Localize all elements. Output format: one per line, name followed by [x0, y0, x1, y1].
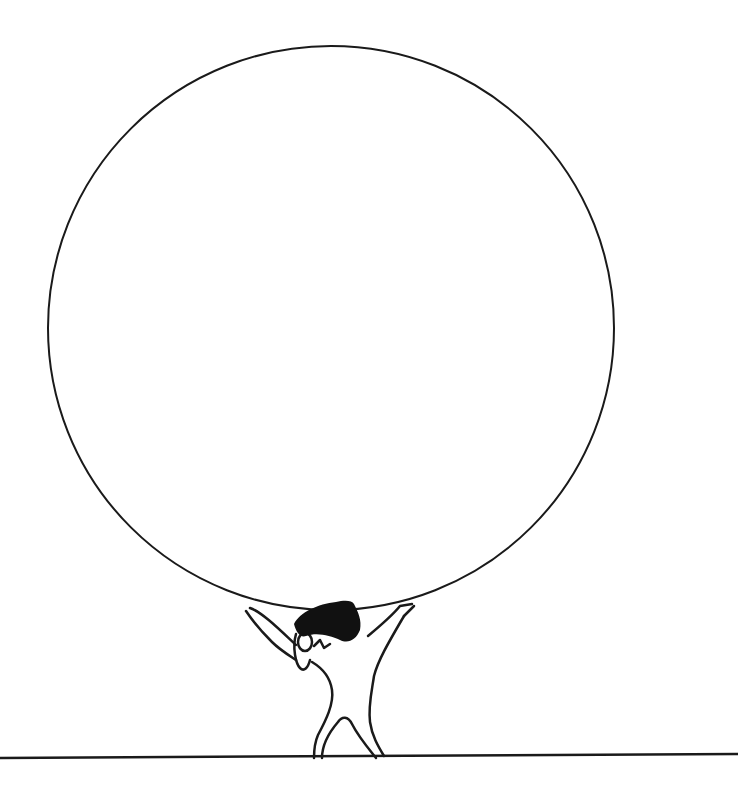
large-circle	[48, 46, 614, 610]
illustration	[0, 0, 738, 796]
hair	[294, 601, 361, 642]
ground-line	[0, 754, 738, 758]
